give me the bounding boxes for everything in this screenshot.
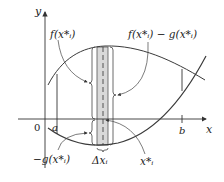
- brace-f-minus-g: [110, 47, 116, 145]
- rectangle-strip: [97, 47, 108, 145]
- x-star-label: x*ᵢ: [140, 155, 153, 167]
- neg-g-label: −g(x*ᵢ): [33, 153, 70, 165]
- leader-x-star: [106, 120, 145, 154]
- brace-neg-g: [89, 120, 95, 145]
- leader-f: [58, 40, 87, 82]
- brace-f: [89, 47, 95, 119]
- b-label: b: [179, 125, 185, 136]
- leader-f-minus-g: [118, 42, 148, 95]
- curve-f: [48, 46, 205, 85]
- brace-delta-x: [97, 148, 108, 152]
- f-label: f(x*ᵢ): [49, 28, 75, 40]
- delta-x-label: Δxᵢ: [91, 154, 108, 166]
- a-label: a: [52, 122, 58, 133]
- y-axis-label: y: [34, 5, 42, 18]
- x-axis-label: x: [206, 123, 213, 136]
- origin-label: 0: [34, 122, 40, 133]
- area-between-curves-diagram: y x 0 a b f(x*ᵢ) f(x*ᵢ) − g(x*ᵢ) −g(x*ᵢ)…: [0, 0, 224, 182]
- f-minus-g-label: f(x*ᵢ) − g(x*ᵢ): [127, 28, 197, 40]
